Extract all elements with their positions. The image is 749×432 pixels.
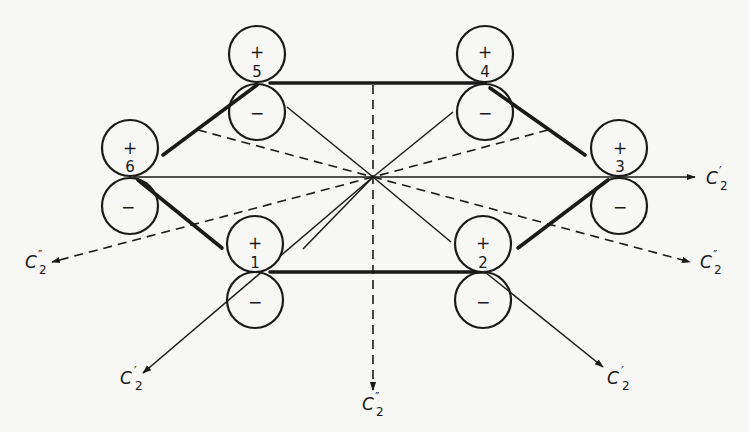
label-c2-prime-lower-right: C ′ 2 xyxy=(607,364,630,393)
c2-prime-axis-diagonal-b xyxy=(373,112,453,177)
atom-number: 3 xyxy=(615,158,625,176)
label-c2-prime-right: C ′ 2 xyxy=(706,164,728,193)
upper-sign: + xyxy=(123,138,137,158)
lower-sign: − xyxy=(478,103,492,123)
bond-3-2 xyxy=(518,180,608,248)
svg-text:2: 2 xyxy=(622,379,630,393)
svg-text:C: C xyxy=(700,252,712,272)
bond-6-5 xyxy=(163,85,257,155)
svg-text:″: ″ xyxy=(38,248,43,262)
svg-text:2: 2 xyxy=(720,179,728,193)
c2-prime-axis-diagonal-a-ext xyxy=(143,177,373,373)
atom-number: 4 xyxy=(480,63,490,81)
upper-sign: + xyxy=(476,233,490,253)
svg-text:′: ′ xyxy=(621,364,624,378)
label-c2-prime-lower-left: C ′ 2 xyxy=(120,364,143,393)
c2-double-prime-axis-left-upper xyxy=(198,130,373,177)
lower-sign: − xyxy=(121,197,135,217)
c2-double-prime-axis-right-upper xyxy=(373,130,548,177)
c2-double-prime-axis-left-lower xyxy=(52,177,373,262)
bond-6-1 xyxy=(138,180,222,248)
label-c2-double-prime-right: C ″ 2 xyxy=(700,248,722,277)
lower-sign: − xyxy=(248,292,262,312)
svg-text:C: C xyxy=(120,368,132,388)
svg-text:2: 2 xyxy=(714,263,722,277)
c2-prime-axis-diagonal-b-ext xyxy=(303,177,373,249)
svg-text:2: 2 xyxy=(135,379,143,393)
c2-prime-axis-diagonal-a xyxy=(287,107,373,177)
atom-number: 6 xyxy=(125,158,135,176)
lower-sign: − xyxy=(476,292,490,312)
svg-text:C: C xyxy=(25,252,37,272)
bond-4-3 xyxy=(490,88,585,155)
svg-text:′: ′ xyxy=(134,364,137,378)
svg-text:C: C xyxy=(607,368,619,388)
atom-number: 2 xyxy=(478,254,488,272)
svg-text:2: 2 xyxy=(39,263,47,277)
upper-sign: + xyxy=(478,42,492,62)
upper-sign: + xyxy=(250,42,264,62)
c2-prime-axis-diagonal-b-inner xyxy=(373,177,451,242)
atom-number: 5 xyxy=(252,63,262,81)
upper-sign: + xyxy=(613,138,627,158)
svg-text:″: ″ xyxy=(713,248,718,262)
atom-number: 1 xyxy=(250,254,260,272)
lower-sign: − xyxy=(613,197,627,217)
svg-text:C: C xyxy=(706,168,718,188)
svg-text:′: ′ xyxy=(719,164,722,178)
lower-sign: − xyxy=(250,103,264,123)
svg-text:″: ″ xyxy=(375,390,380,404)
label-c2-double-prime-bottom: C ″ 2 xyxy=(362,390,384,419)
svg-text:2: 2 xyxy=(376,405,384,419)
upper-sign: + xyxy=(248,233,262,253)
svg-text:C: C xyxy=(362,394,374,414)
label-c2-double-prime-left: C ″ 2 xyxy=(25,248,47,277)
benzene-symmetry-diagram: + 5 − + 4 − + 6 − + 3 − xyxy=(0,0,749,432)
